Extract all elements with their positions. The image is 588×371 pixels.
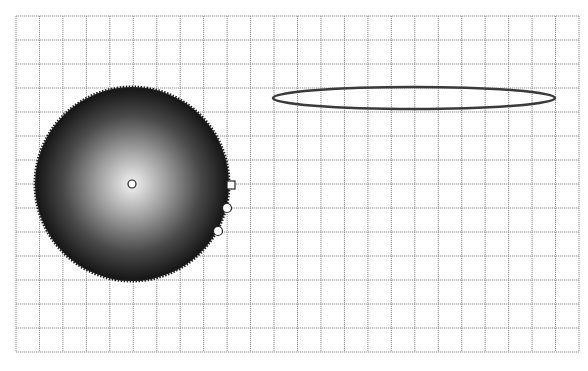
drawing-canvas[interactable]: Drawing canvas xyxy=(0,0,588,371)
circle-handle[interactable] xyxy=(214,227,223,236)
square-handle[interactable] xyxy=(227,181,235,189)
ellipse-shape[interactable] xyxy=(273,87,555,109)
center-handle[interactable] xyxy=(128,180,136,188)
gradient-circle-shape[interactable] xyxy=(35,87,235,281)
circle-handle[interactable] xyxy=(223,204,232,213)
